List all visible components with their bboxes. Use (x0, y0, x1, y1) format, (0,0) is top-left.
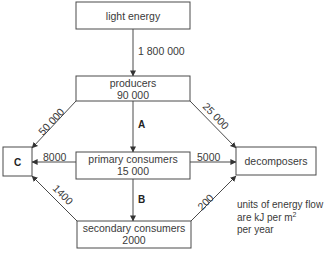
flow-secondary-to-decomposers: 200 (195, 191, 216, 212)
c-label: C (14, 157, 21, 168)
units-note-line2: are kJ per m2 (237, 212, 323, 225)
units-note-superscript: 2 (293, 211, 297, 218)
flow-label-a: A (138, 119, 145, 130)
light-energy-label: light energy (106, 10, 161, 22)
producers-value: 90 000 (117, 89, 149, 101)
flow-producers-to-c: 50 000 (36, 106, 67, 138)
flow-primary-to-decomposers: 5000 (197, 151, 221, 163)
primary-consumers-value: 15 000 (117, 165, 149, 177)
primary-consumers-label: primary consumers (88, 153, 177, 165)
secondary-consumers-value: 2000 (122, 234, 146, 246)
units-note: units of energy flow are kJ per m2 per y… (237, 199, 323, 237)
flow-secondary-to-c: 1400 (51, 182, 76, 207)
flow-producers-to-decomposers: 25 000 (201, 100, 232, 132)
units-note-line1: units of energy flow (237, 199, 323, 212)
flow-primary-to-c: 8000 (43, 151, 67, 163)
units-note-line2-text: are kJ per m (237, 212, 293, 223)
decomposers-label: decomposers (244, 155, 307, 167)
producers-label: producers (110, 77, 157, 89)
units-note-line3: per year (237, 224, 323, 237)
flow-light-to-producers: 1 800 000 (138, 45, 185, 57)
flow-label-b: B (138, 194, 145, 205)
secondary-consumers-label: secondary consumers (83, 222, 186, 234)
